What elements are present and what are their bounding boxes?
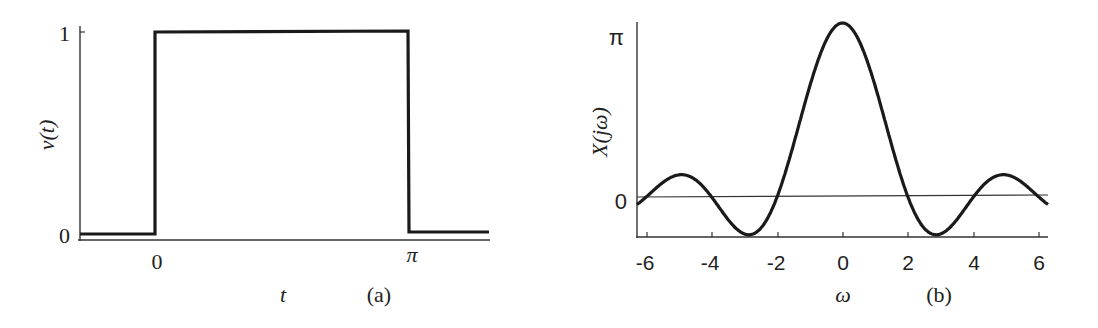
chart-b-panel-label: (b) — [926, 282, 952, 307]
chart-a-ytick-label-0: 0 — [59, 223, 70, 248]
chart-b-xtick-label: -6 — [636, 251, 655, 274]
chart-a-ytick-label-1: 1 — [59, 21, 70, 46]
chart-b-zero-line — [637, 195, 1048, 197]
chart-b-xtick-labels: -6 -4 -2 0 2 4 6 — [636, 251, 1045, 274]
chart-a-pulse-line — [80, 31, 489, 234]
chart-b-xtick-label: -4 — [701, 251, 720, 274]
chart-a-xtick-label-pi: π — [406, 242, 418, 267]
figure: 1 0 0 π t (a) v(t) π 0 -6 -4 -2 0 — [0, 0, 1098, 328]
chart-b-spectrum-curve — [637, 23, 1048, 235]
chart-b-ylabel: X(jω) — [587, 107, 612, 158]
chart-b-xtick-label: 2 — [902, 251, 914, 274]
chart-b-ytick-label-0: 0 — [615, 189, 627, 214]
chart-b-xtick-label: 0 — [837, 251, 849, 274]
chart-b-xlabel: ω — [835, 282, 851, 307]
chart-b-xtick-label: 4 — [968, 251, 980, 274]
chart-b-ytick-label-pi: π — [609, 25, 624, 50]
chart-a-ylabel: v(t) — [34, 120, 59, 151]
chart-b-xtick-label: -2 — [767, 251, 786, 274]
chart-a-xlabel: t — [280, 282, 287, 307]
chart-a-xtick-label-0: 0 — [152, 249, 163, 274]
chart-b-x-ticks — [647, 232, 1039, 237]
chart-b: π 0 -6 -4 -2 0 2 4 6 ω (b) X(jω) — [587, 22, 1048, 307]
chart-a-panel-label: (a) — [367, 282, 391, 307]
chart-b-xtick-label: 6 — [1033, 251, 1045, 274]
chart-a: 1 0 0 π t (a) v(t) — [34, 21, 490, 307]
